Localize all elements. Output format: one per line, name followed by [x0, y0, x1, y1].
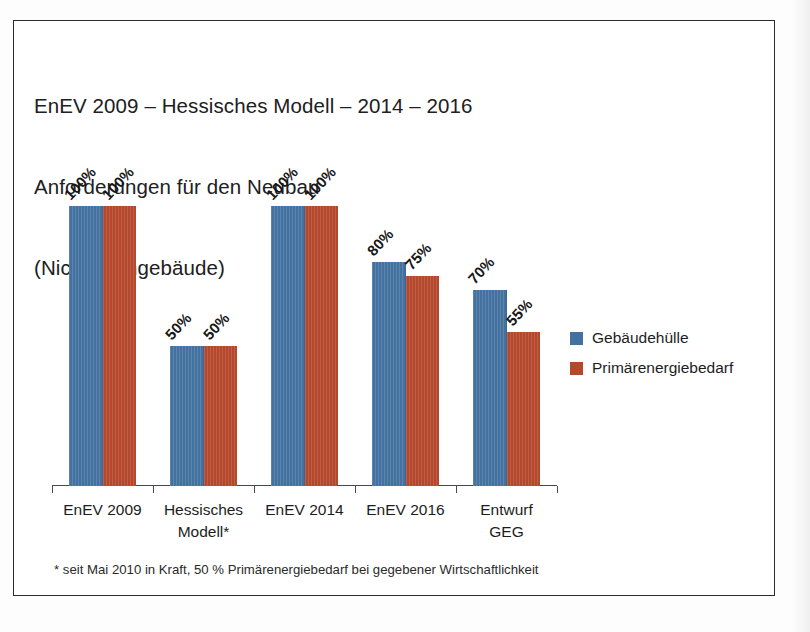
x-axis-label-3: EnEV 2014	[254, 499, 355, 521]
legend-label-gebaeudehuelle: Gebäudehülle	[592, 329, 689, 347]
bar-gebaeudehuelle[interactable]: 100%	[69, 206, 103, 486]
legend-item-gebaeudehuelle[interactable]: Gebäudehülle	[570, 323, 770, 353]
legend-swatch-red-icon	[570, 362, 583, 375]
bar-value-label: 75%	[402, 239, 435, 273]
x-axis-label-line-1: Hessisches	[164, 501, 243, 518]
x-axis-label-4: EnEV 2016	[355, 499, 456, 521]
scan-edge-shadow	[792, 0, 810, 632]
legend-swatch-blue-icon	[570, 332, 583, 345]
bar-group: 50%50%	[153, 141, 254, 486]
x-axis-label-5: EntwurfGEG	[456, 499, 557, 543]
bar-primaerenergiebedarf[interactable]: 100%	[305, 206, 338, 486]
bar-group: 80%75%	[355, 141, 456, 486]
bar-value-label: 100%	[99, 163, 138, 203]
bar-value-label: 50%	[200, 309, 233, 343]
x-axis-tick	[557, 486, 558, 493]
legend-label-primaerenergiebedarf: Primärenergiebedarf	[592, 359, 733, 377]
x-axis-label-line-1: EnEV 2016	[366, 501, 444, 518]
x-axis-tick	[52, 486, 53, 493]
bar-gebaeudehuelle[interactable]: 70%	[473, 290, 507, 486]
bar-gebaeudehuelle[interactable]: 100%	[271, 206, 305, 486]
bar-value-label: 100%	[301, 163, 340, 203]
bar-value-label: 100%	[263, 163, 302, 203]
bar-primaerenergiebedarf[interactable]: 75%	[406, 276, 439, 486]
plot-area: 100%100%50%50%100%100%80%75%70%55%	[44, 141, 564, 486]
bar-value-label: 70%	[465, 253, 498, 287]
x-axis-tick	[254, 486, 255, 493]
x-axis-label-2: HessischesModell*	[153, 499, 254, 543]
x-axis-label-line-2: Modell*	[153, 521, 254, 543]
chart-frame: EnEV 2009 – Hessisches Modell – 2014 – 2…	[13, 20, 775, 596]
bar-value-label: 50%	[162, 309, 195, 343]
bar-value-label: 55%	[503, 295, 536, 329]
chart-legend: Gebäudehülle Primärenergiebedarf	[570, 323, 770, 383]
bar-primaerenergiebedarf[interactable]: 50%	[204, 346, 237, 486]
chart-title-line-1: EnEV 2009 – Hessisches Modell – 2014 – 2…	[34, 92, 473, 119]
bar-primaerenergiebedarf[interactable]: 100%	[103, 206, 136, 486]
x-axis-label-line-1: EnEV 2009	[63, 501, 141, 518]
bar-value-label: 80%	[364, 225, 397, 259]
x-axis-category-labels: EnEV 2009HessischesModell*EnEV 2014EnEV …	[44, 499, 564, 555]
x-axis-label-1: EnEV 2009	[52, 499, 153, 521]
x-axis-label-line-1: Entwurf	[480, 501, 533, 518]
x-axis-tick	[355, 486, 356, 493]
bar-group: 70%55%	[456, 141, 557, 486]
bar-gebaeudehuelle[interactable]: 80%	[372, 262, 406, 486]
x-axis-label-line-2: GEG	[456, 521, 557, 543]
page-canvas: EnEV 2009 – Hessisches Modell – 2014 – 2…	[0, 0, 810, 632]
bar-group: 100%100%	[254, 141, 355, 486]
x-axis-tick	[153, 486, 154, 493]
x-axis-label-line-1: EnEV 2014	[265, 501, 343, 518]
bar-value-label: 100%	[61, 163, 100, 203]
x-axis-tick	[456, 486, 457, 493]
bar-primaerenergiebedarf[interactable]: 55%	[507, 332, 540, 486]
legend-item-primaerenergiebedarf[interactable]: Primärenergiebedarf	[570, 353, 770, 383]
bar-group: 100%100%	[52, 141, 153, 486]
bar-gebaeudehuelle[interactable]: 50%	[170, 346, 204, 486]
chart-footnote: * seit Mai 2010 in Kraft, 50 % Primärene…	[54, 562, 539, 577]
